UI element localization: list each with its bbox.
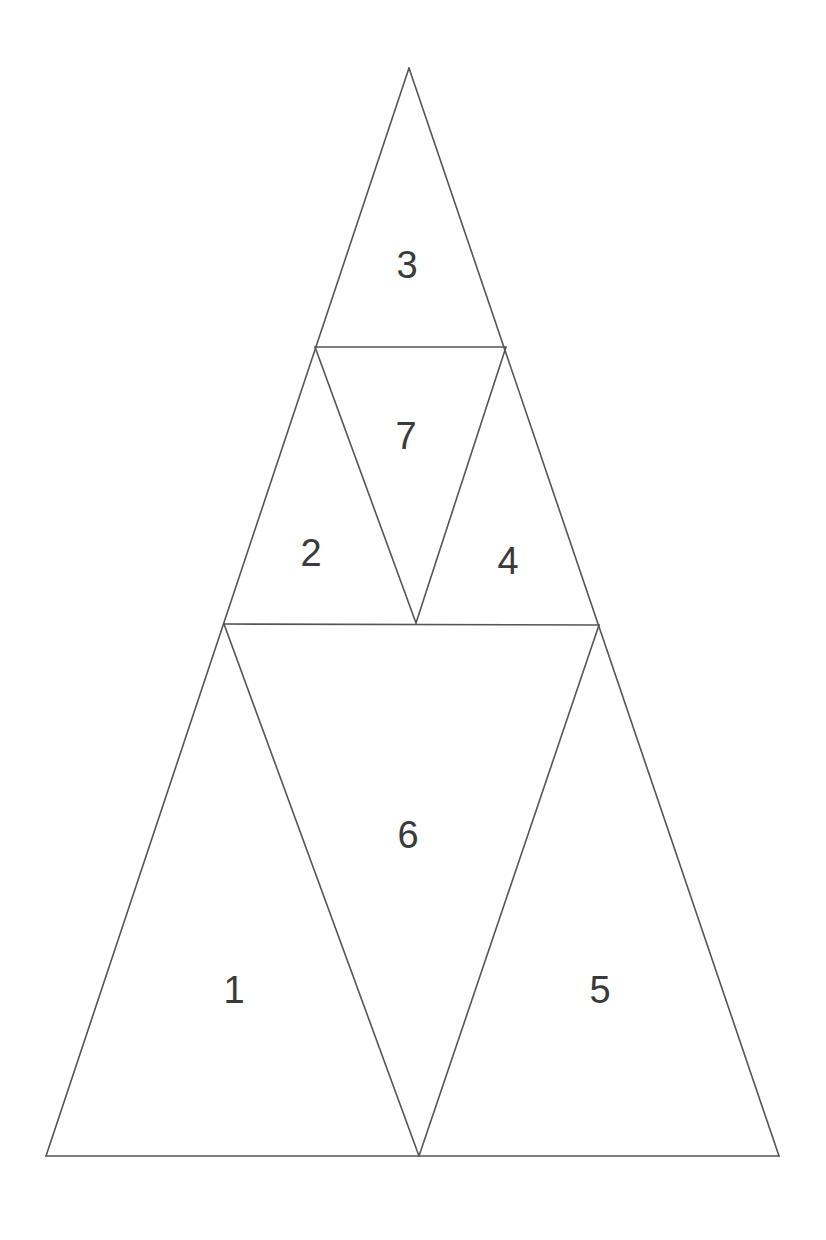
region-label-3: 3 <box>396 244 417 286</box>
region-3 <box>315 68 506 347</box>
region-label-5: 5 <box>589 969 610 1011</box>
region-label-6: 6 <box>397 814 418 856</box>
region-label-4: 4 <box>497 540 518 582</box>
region-label-7: 7 <box>395 415 416 457</box>
edge-line <box>224 624 599 625</box>
region-label-1: 1 <box>223 969 244 1011</box>
region-label-2: 2 <box>300 532 321 574</box>
triangle-diagram: 1234567 <box>0 0 826 1240</box>
